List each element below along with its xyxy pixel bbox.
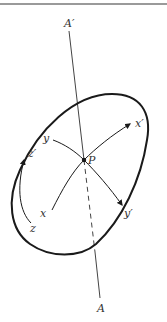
y-to-y-prime-curve — [53, 140, 122, 205]
z-to-z-prime-curve — [20, 160, 31, 223]
z-label: z — [29, 222, 36, 235]
rotation-axis-upper — [69, 31, 84, 160]
y-label: y — [42, 132, 50, 145]
point-label: P — [87, 154, 96, 167]
pivot-point-dot — [82, 158, 86, 162]
y-prime-label: y′ — [123, 207, 133, 220]
rotation-axis-hidden — [84, 160, 95, 252]
axis-top-label: A′ — [63, 17, 75, 30]
axis-bottom-label: A — [96, 302, 105, 315]
rotation-axis-lower — [95, 252, 100, 298]
z-prime-label: z′ — [27, 147, 37, 160]
x-prime-label: x′ — [135, 117, 144, 130]
x-label: x — [40, 207, 47, 220]
rigid-body-diagram: A′ A P x′ y′ z′ y x z — [0, 0, 167, 322]
